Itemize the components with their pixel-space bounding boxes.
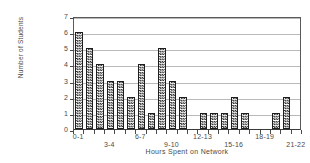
y-axis-tick-label: 1 [0,109,68,116]
histogram-bar [210,113,217,129]
histogram-bar [96,64,103,129]
y-axis-tick-label: 4 [0,61,68,68]
histogram-bar [231,97,238,129]
x-axis-tick-label: 9-10 [164,141,179,148]
y-axis-tick-label: 0 [0,126,68,133]
histogram-bar [117,81,124,129]
histogram-bar [148,113,155,129]
x-axis-tick-label: 0-1 [73,133,84,140]
y-axis-tick-label: 7 [0,13,68,20]
histogram-bar [127,97,134,129]
histogram-bar [169,81,176,129]
bar-series [74,18,300,129]
x-axis-tick-label: 15-16 [224,141,243,148]
histogram-bar [283,97,290,129]
x-axis-tick-label: 12-13 [193,133,212,140]
x-axis-tick-label: 6-7 [135,133,146,140]
histogram-bar [272,113,279,129]
histogram-bar [221,113,228,129]
histogram-bar [86,48,93,129]
y-axis-tick-label: 3 [0,77,68,84]
histogram-bar [107,81,114,129]
histogram-bar [138,64,145,129]
y-axis-tick-label: 2 [0,93,68,100]
plot-area [73,17,301,130]
x-axis-tick-label: 18-19 [255,133,274,140]
y-axis-tick-label: 6 [0,29,68,36]
x-axis-tick-label: 3-4 [104,141,115,148]
y-axis-tick-label: 5 [0,45,68,52]
histogram-bar [75,32,82,129]
histogram-chart: Number of Students 01234567 0-13-46-79-1… [0,0,310,163]
histogram-bar [200,113,207,129]
x-axis-tick-label: 21-22 [286,141,305,148]
histogram-bar [179,97,186,129]
x-axis-title: Hours Spent on Network [73,148,301,155]
histogram-bar [241,113,248,129]
histogram-bar [158,48,165,129]
